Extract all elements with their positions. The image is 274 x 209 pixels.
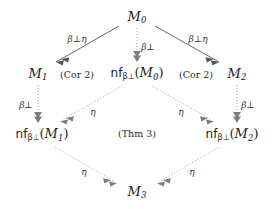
- node-M1-label: M: [29, 66, 42, 81]
- node-nf-M0: nfβ⊥(M0): [111, 66, 164, 81]
- node-M3-label: M: [128, 184, 141, 199]
- node-nf-M1: nfβ⊥(M1): [16, 127, 69, 142]
- edge-label-M0-to-M2: β⊥η: [188, 35, 207, 44]
- node-nf-M2-operator: nf: [206, 127, 218, 141]
- edge-nfM0-to-nfM1: [60, 86, 122, 125]
- node-nf-M0-label: M: [140, 65, 153, 80]
- node-nf-M1-close-paren: ): [63, 126, 68, 141]
- edge-M0-to-M1: [56, 26, 119, 65]
- edge-M0-to-nfM0: [133, 28, 141, 62]
- region-label-cor2-right: (Cor 2): [179, 70, 213, 80]
- node-nf-M2: nfβ⊥(M2): [206, 127, 259, 142]
- node-M1-subscript: 1: [42, 72, 47, 82]
- edge-label-nfM0-to-nfM2: η: [178, 108, 183, 117]
- edge-label-M0-to-M1: β⊥η: [67, 35, 86, 44]
- node-nf-M1-label: M: [45, 126, 58, 141]
- node-nf-M1-operator: nf: [16, 127, 28, 141]
- node-M0-label: M: [128, 9, 141, 24]
- node-nf-M0-operator: nf: [111, 66, 123, 80]
- node-M2-label: M: [228, 66, 241, 81]
- node-M0-subscript: 0: [141, 15, 146, 25]
- node-nf-M1-operator-subscript: β⊥: [27, 133, 39, 142]
- edge-label-nfM2-to-M3: η: [189, 168, 194, 177]
- region-label-thm3: (Thm 3): [118, 129, 156, 139]
- edge-nfM0-to-nfM2: [152, 86, 214, 125]
- diagram-edge-layer: [0, 0, 274, 209]
- node-M3-subscript: 3: [141, 190, 146, 200]
- node-nf-M2-label: M: [235, 126, 248, 141]
- node-M2-subscript: 2: [241, 72, 246, 82]
- node-M3: M3: [128, 185, 147, 200]
- region-label-cor2-left: (Cor 2): [60, 70, 94, 80]
- edge-M1-to-nfM1: [34, 85, 42, 123]
- node-M2: M2: [228, 67, 247, 82]
- commutative-diagram: M0 M1 nfβ⊥(M0) M2 nfβ⊥(M1) nfβ⊥(M2) M3 β…: [0, 0, 274, 209]
- edge-label-nfM0-to-nfM1: η: [90, 108, 95, 117]
- edge-M2-to-nfM2: [233, 85, 241, 123]
- node-nf-M2-operator-subscript: β⊥: [217, 133, 229, 142]
- node-nf-M2-close-paren: ): [253, 126, 258, 141]
- edge-label-M1-to-nfM1: β⊥: [19, 101, 33, 110]
- edge-label-nfM1-to-M3: η: [81, 168, 86, 177]
- node-nf-M0-operator-subscript: β⊥: [122, 72, 134, 81]
- edge-label-M2-to-nfM2: β⊥: [241, 101, 255, 110]
- edge-nfM2-to-M3: [157, 147, 219, 187]
- edge-label-M0-to-nfM0: β⊥: [141, 43, 155, 52]
- node-nf-M0-close-paren: ): [158, 65, 163, 80]
- node-M1: M1: [29, 67, 48, 82]
- node-M0: M0: [128, 10, 147, 25]
- edge-M0-to-M2: [155, 26, 219, 65]
